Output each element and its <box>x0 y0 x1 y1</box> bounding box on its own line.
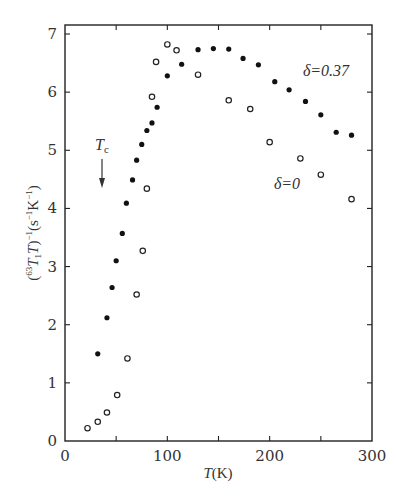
data-point <box>155 105 160 110</box>
y-tick-labels: 01234567 <box>47 25 57 450</box>
data-point <box>95 351 100 356</box>
data-point <box>130 177 135 182</box>
series-delta-0-37 <box>95 46 354 356</box>
y-title-unit-close: ) <box>25 185 42 190</box>
data-point <box>134 158 139 163</box>
data-point <box>240 56 245 61</box>
x-tick-label: 300 <box>358 447 387 465</box>
x-tick-label: 200 <box>255 447 284 465</box>
data-point <box>124 201 129 206</box>
data-point <box>174 48 179 53</box>
y-tick-label: 2 <box>47 316 57 334</box>
data-point <box>165 73 170 78</box>
data-point <box>149 94 154 99</box>
data-point <box>298 156 303 161</box>
data-point <box>349 133 354 138</box>
data-point <box>349 196 354 201</box>
data-point <box>95 419 100 424</box>
data-point <box>114 392 119 397</box>
y-tick-label: 3 <box>47 258 57 276</box>
data-point <box>211 46 216 51</box>
data-point <box>85 426 90 431</box>
data-point <box>303 99 308 104</box>
data-point <box>104 315 109 320</box>
y-tick-label: 7 <box>47 25 57 43</box>
data-point <box>153 59 158 64</box>
data-point <box>195 72 200 77</box>
data-point <box>248 106 253 111</box>
data-point <box>120 231 125 236</box>
x-tick-label: 0 <box>60 447 70 465</box>
data-point <box>165 42 170 47</box>
y-title-s-inv: −1 <box>24 211 34 221</box>
data-point <box>104 410 109 415</box>
plot-frame <box>65 25 372 441</box>
x-tick-labels: 0100200300 <box>60 447 386 465</box>
data-point <box>195 47 200 52</box>
x-axis-title: T(K) <box>203 465 232 482</box>
data-point <box>179 62 184 67</box>
data-point <box>149 120 154 125</box>
data-point <box>144 186 149 191</box>
y-tick-label: 5 <box>47 141 57 159</box>
x-axis-unit: (K) <box>212 465 233 482</box>
y-tick-label: 4 <box>47 199 57 217</box>
data-point <box>256 62 261 67</box>
data-point <box>134 292 139 297</box>
axis-ticks <box>65 25 372 441</box>
y-title-unit-s: (s <box>25 220 42 231</box>
data-point <box>114 258 119 263</box>
data-point <box>267 139 272 144</box>
tc-label: Tc <box>95 136 109 155</box>
y-title-k-inv: −1 <box>24 190 34 200</box>
series-delta-0 <box>85 42 354 431</box>
data-point <box>318 112 323 117</box>
data-point <box>272 79 277 84</box>
data-point <box>144 128 149 133</box>
data-point <box>287 87 292 92</box>
nmr-relaxation-chart: 0100200300 01234567 T(K) (63T1T)−1(s−1K−… <box>0 0 398 502</box>
y-title-unit-k: K <box>25 200 41 211</box>
tc-arrow-icon <box>99 159 105 188</box>
y-title-inv: −1 <box>24 231 34 241</box>
data-point <box>139 142 144 147</box>
y-tick-label: 1 <box>47 374 57 392</box>
data-point <box>140 248 145 253</box>
tc-label-sub: c <box>104 143 109 155</box>
y-axis-title: (63T1T)−1(s−1K−1) <box>24 185 43 281</box>
annotation-delta-0-37: δ=0.37 <box>303 62 350 79</box>
y-tick-label: 0 <box>47 432 57 450</box>
x-tick-label: 100 <box>153 447 182 465</box>
y-tick-label: 6 <box>47 83 57 101</box>
data-point <box>226 98 231 103</box>
data-point <box>109 285 114 290</box>
data-point <box>318 172 323 177</box>
data-point <box>226 47 231 52</box>
data-point <box>125 356 130 361</box>
data-point <box>334 130 339 135</box>
annotation-delta-0: δ=0 <box>274 175 300 192</box>
